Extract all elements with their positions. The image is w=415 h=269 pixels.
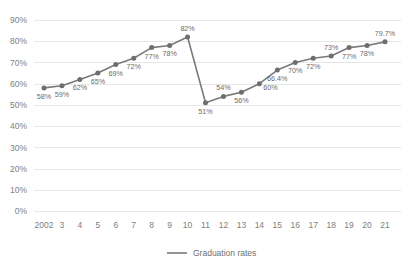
data-point-marker [149, 45, 154, 50]
data-point-label: 72% [127, 62, 142, 71]
y-axis-tick-label: 20% [10, 164, 27, 174]
legend-label: Graduation rates [193, 248, 256, 258]
data-point-label: 70% [288, 66, 303, 75]
x-axis-tick-label: 17 [308, 220, 318, 230]
y-axis-tick-label: 0% [15, 206, 28, 216]
data-point-marker [221, 94, 226, 99]
data-point-marker [383, 39, 388, 44]
x-axis-tick-label: 18 [326, 220, 336, 230]
y-axis-tick-label: 70% [10, 58, 27, 68]
data-point-marker [365, 43, 370, 48]
data-point-marker [311, 56, 316, 61]
data-point-label: 59% [55, 90, 70, 99]
data-point-label: 54% [216, 83, 231, 92]
data-point-label: 82% [180, 24, 195, 33]
x-axis-tick-label: 10 [183, 220, 193, 230]
y-axis-tick-label: 10% [10, 185, 27, 195]
y-axis-tick-label: 40% [10, 121, 27, 131]
data-point-label: 58% [37, 92, 52, 101]
data-point-marker [131, 56, 136, 61]
x-axis-tick-label: 21 [380, 220, 390, 230]
x-axis-tick-label: 12 [219, 220, 229, 230]
data-point-label: 77% [144, 52, 159, 61]
data-point-label: 73% [324, 43, 339, 52]
data-point-marker [185, 34, 190, 39]
y-axis-tick-label: 80% [10, 36, 27, 46]
data-point-marker [59, 83, 64, 88]
data-point-label: 60% [263, 83, 278, 92]
x-axis-tick-label: 7 [131, 220, 136, 230]
chart-canvas: 90%80%70%60%50%40%30%20%10%0% 2002345678… [0, 0, 415, 269]
data-point-marker [167, 43, 172, 48]
data-point-marker [239, 90, 244, 95]
x-axis-tick-label: 15 [273, 220, 283, 230]
data-point-label: 66.4% [267, 74, 288, 83]
data-point-label: 62% [73, 83, 88, 92]
data-point-label: 72% [306, 62, 321, 71]
x-axis-tick-label: 16 [291, 220, 301, 230]
data-point-marker [77, 77, 82, 82]
x-axis-tick-label: 14 [255, 220, 265, 230]
line-chart: 90%80%70%60%50%40%30%20%10%0% 2002345678… [0, 0, 415, 269]
x-axis-tick-label: 8 [149, 220, 154, 230]
x-axis-tick-label: 6 [113, 220, 118, 230]
data-point-marker [42, 85, 47, 90]
x-axis-tick-label: 13 [237, 220, 247, 230]
data-point-marker [113, 62, 118, 67]
data-point-label: 79.7% [375, 29, 396, 38]
x-axis-tick-label: 3 [60, 220, 65, 230]
data-point-marker [275, 68, 280, 73]
data-point-marker [257, 81, 262, 86]
data-point-label: 51% [198, 107, 213, 116]
x-axis-tick-label: 9 [167, 220, 172, 230]
data-point-label: 78% [360, 49, 375, 58]
data-point-label: 69% [109, 69, 124, 78]
data-point-label: 56% [234, 96, 249, 105]
data-point-marker [203, 100, 208, 105]
x-axis-tick-label: 4 [78, 220, 83, 230]
y-axis-tick-label: 60% [10, 79, 27, 89]
data-point-marker [95, 71, 100, 76]
y-axis-tick-label: 30% [10, 143, 27, 153]
x-axis-tick-label: 11 [201, 220, 210, 230]
y-axis-tick-label: 90% [10, 15, 27, 25]
x-axis-tick-label: 19 [344, 220, 354, 230]
x-axis-tick-label: 20 [362, 220, 372, 230]
x-axis-tick-label: 5 [95, 220, 100, 230]
data-point-marker [347, 45, 352, 50]
data-point-label: 77% [342, 52, 357, 61]
data-point-label: 65% [91, 77, 106, 86]
data-point-label: 78% [162, 49, 177, 58]
x-axis-tick-label: 2002 [35, 220, 54, 230]
data-point-marker [329, 54, 334, 59]
y-axis-tick-label: 50% [10, 100, 27, 110]
data-point-marker [293, 60, 298, 65]
